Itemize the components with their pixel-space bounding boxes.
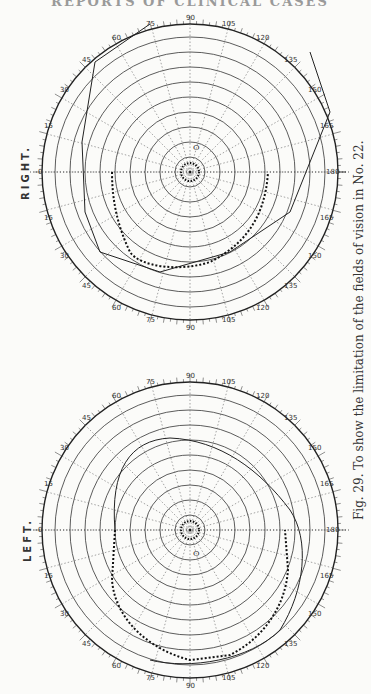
svg-text:15: 15 — [44, 214, 53, 222]
svg-text:15: 15 — [44, 122, 53, 130]
svg-text:90: 90 — [186, 14, 195, 22]
svg-text:105: 105 — [222, 378, 235, 386]
svg-text:0: 0 — [38, 526, 42, 534]
svg-text:105: 105 — [222, 316, 235, 324]
right-eye-chart: O 907560 453015 01530 456075 90105120 13… — [0, 0, 371, 350]
svg-text:75: 75 — [146, 674, 155, 682]
svg-text:30: 30 — [60, 444, 69, 452]
svg-text:180: 180 — [326, 168, 339, 176]
svg-text:75: 75 — [146, 316, 155, 324]
svg-text:165: 165 — [320, 214, 333, 222]
svg-text:30: 30 — [60, 252, 69, 260]
svg-text:90: 90 — [186, 324, 195, 332]
svg-text:45: 45 — [82, 640, 91, 648]
svg-text:90: 90 — [186, 372, 195, 380]
svg-text:135: 135 — [284, 56, 297, 64]
svg-text:165: 165 — [320, 572, 333, 580]
svg-text:60: 60 — [112, 392, 121, 400]
svg-text:120: 120 — [256, 34, 269, 42]
svg-text:60: 60 — [112, 34, 121, 42]
svg-text:60: 60 — [112, 304, 121, 312]
svg-text:150: 150 — [308, 252, 321, 260]
svg-text:150: 150 — [308, 444, 321, 452]
svg-text:75: 75 — [146, 20, 155, 28]
svg-text:45: 45 — [82, 414, 91, 422]
meridian-labels: 907560 453015 01530 456075 90105120 1351… — [38, 372, 339, 690]
svg-text:135: 135 — [284, 414, 297, 422]
left-eye-perimetry-svg: O 907560 453015 01530 456075 90105120 13… — [0, 350, 371, 694]
svg-text:165: 165 — [320, 122, 333, 130]
svg-text:15: 15 — [44, 572, 53, 580]
blind-spot-marker: O — [193, 549, 200, 558]
figure-caption: Fig. 29. To show the limitation of the f… — [352, 141, 366, 520]
svg-text:165: 165 — [320, 480, 333, 488]
svg-text:45: 45 — [82, 282, 91, 290]
blind-spot-marker: O — [193, 143, 200, 152]
svg-text:45: 45 — [82, 56, 91, 64]
svg-text:150: 150 — [308, 86, 321, 94]
svg-text:30: 30 — [60, 86, 69, 94]
right-eye-label: RIGHT. — [20, 145, 31, 200]
svg-text:120: 120 — [256, 662, 269, 670]
svg-text:15: 15 — [44, 480, 53, 488]
svg-text:150: 150 — [308, 610, 321, 618]
svg-text:120: 120 — [256, 304, 269, 312]
svg-text:30: 30 — [60, 610, 69, 618]
svg-text:105: 105 — [222, 20, 235, 28]
svg-text:60: 60 — [112, 662, 121, 670]
svg-text:90: 90 — [186, 682, 195, 690]
svg-text:135: 135 — [284, 640, 297, 648]
svg-text:180: 180 — [326, 526, 339, 534]
svg-text:75: 75 — [146, 378, 155, 386]
svg-text:0: 0 — [38, 168, 42, 176]
svg-text:105: 105 — [222, 674, 235, 682]
svg-text:120: 120 — [256, 392, 269, 400]
left-eye-chart: O 907560 453015 01530 456075 90105120 13… — [0, 350, 371, 694]
svg-text:135: 135 — [284, 282, 297, 290]
left-eye-label: LEFT. — [22, 518, 33, 562]
right-eye-perimetry-svg: O 907560 453015 01530 456075 90105120 13… — [0, 0, 371, 350]
field-limit-dotted — [112, 530, 288, 660]
